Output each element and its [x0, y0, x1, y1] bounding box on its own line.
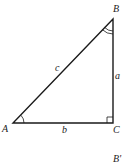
angle-arc-b-outer [102, 30, 113, 34]
vertex-label-b: B [113, 3, 119, 14]
angle-arc-b-inner [105, 27, 114, 31]
right-angle-mark-c [107, 117, 113, 123]
vertex-label-c: C [113, 124, 120, 135]
triangle-outline [13, 19, 113, 123]
triangle-diagram: B A C a b c B' [0, 0, 124, 165]
label-b-prime: B' [113, 153, 122, 164]
side-label-b: b [62, 124, 67, 135]
vertex-label-a: A [1, 123, 9, 134]
angle-arc-a [21, 115, 24, 123]
side-label-a: a [115, 70, 120, 81]
side-label-c: c [55, 62, 60, 73]
